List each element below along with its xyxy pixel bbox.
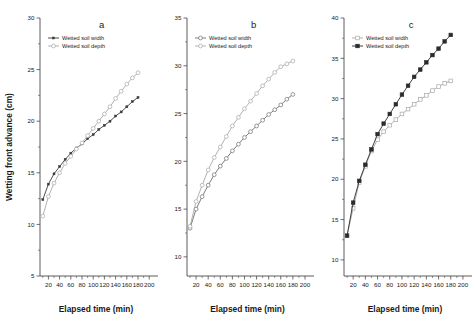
legend-label: Wetted soil width	[366, 35, 408, 41]
data-marker	[267, 113, 271, 117]
data-marker	[70, 152, 72, 154]
x-tick-label: 120	[409, 281, 420, 288]
data-marker	[137, 96, 139, 98]
data-marker	[418, 68, 422, 72]
x-tick-label: 140	[110, 281, 121, 288]
data-marker	[425, 94, 429, 98]
x-tick-label: 40	[362, 281, 369, 288]
data-marker	[224, 157, 228, 161]
data-marker	[52, 181, 56, 185]
y-tick-label: 25	[28, 66, 35, 73]
data-marker	[279, 103, 283, 107]
panel-c: 1015202530354020406080100120140160180200…	[314, 0, 473, 324]
data-marker	[356, 36, 360, 40]
x-tick-label: 100	[397, 281, 408, 288]
x-tick-label: 40	[56, 281, 63, 288]
data-marker	[188, 224, 192, 228]
panel-letter-a: a	[99, 19, 105, 30]
data-marker	[394, 102, 398, 106]
x-axis-title: Elapsed time (min)	[210, 304, 285, 314]
panel-letter-b: b	[251, 19, 256, 30]
data-marker	[400, 112, 404, 116]
data-marker	[131, 101, 133, 103]
data-marker	[437, 47, 441, 51]
data-marker	[194, 200, 198, 204]
x-tick-label: 160	[122, 281, 133, 288]
x-tick-label: 200	[458, 281, 469, 288]
data-marker	[255, 92, 259, 96]
data-marker	[449, 33, 453, 37]
data-marker	[237, 115, 241, 119]
data-marker	[437, 85, 441, 89]
data-marker	[400, 93, 404, 97]
data-marker	[255, 124, 259, 128]
y-tick-label: 35	[332, 55, 339, 62]
x-tick-label: 60	[374, 281, 381, 288]
x-tick-label: 180	[446, 281, 457, 288]
data-marker	[449, 79, 453, 83]
figure-wetting-front-advance: 5101520253020406080100120140160180200aWe…	[0, 0, 473, 324]
data-marker	[431, 89, 435, 93]
data-marker	[261, 84, 265, 88]
data-marker	[249, 99, 253, 103]
data-marker	[443, 40, 447, 44]
x-tick-label: 180	[133, 281, 144, 288]
data-marker	[108, 105, 112, 109]
y-tick-label: 25	[332, 135, 339, 142]
data-marker	[406, 107, 410, 111]
y-axis-title: Wetting front advance (cm)	[4, 93, 14, 201]
data-marker	[125, 82, 129, 86]
data-marker	[224, 135, 228, 139]
y-tick-label: 30	[175, 62, 182, 69]
data-marker	[42, 199, 44, 201]
x-tick-label: 80	[79, 281, 86, 288]
data-marker	[212, 156, 216, 160]
data-marker	[131, 76, 135, 80]
data-marker	[394, 118, 398, 122]
x-tick-label: 20	[350, 281, 357, 288]
data-marker	[103, 124, 105, 126]
panel-a: 5101520253020406080100120140160180200aWe…	[0, 0, 158, 324]
data-marker	[356, 44, 360, 48]
y-tick-label: 15	[332, 216, 339, 223]
data-marker	[75, 147, 79, 151]
x-tick-label: 160	[433, 281, 444, 288]
data-marker	[382, 122, 386, 126]
data-marker	[370, 148, 374, 152]
x-tick-label: 180	[288, 281, 299, 288]
data-marker	[285, 97, 289, 101]
data-marker	[47, 195, 51, 199]
data-marker	[69, 154, 73, 158]
data-marker	[91, 127, 95, 131]
x-tick-label: 80	[229, 281, 236, 288]
data-marker	[92, 134, 94, 136]
chart-svg-c: 1015202530354020406080100120140160180200…	[314, 0, 473, 324]
y-tick-label: 30	[332, 95, 339, 102]
legend-label: Wetted soil depth	[366, 43, 409, 49]
legend: Wetted soil widthWetted soil depth	[48, 35, 105, 49]
series-line	[43, 97, 138, 199]
data-marker	[41, 214, 45, 218]
axis-lines	[40, 18, 158, 276]
series-1	[42, 96, 139, 200]
data-marker	[406, 84, 410, 88]
data-marker	[212, 173, 216, 177]
series-line	[190, 94, 293, 228]
data-marker	[86, 134, 90, 138]
y-tick-label: 10	[175, 253, 182, 260]
legend: Wetted soil widthWetted soil depth	[352, 35, 409, 49]
data-marker	[388, 112, 392, 116]
series-2	[188, 59, 295, 228]
data-marker	[80, 141, 84, 145]
data-marker	[357, 179, 361, 183]
data-marker	[382, 130, 386, 134]
data-marker	[103, 112, 107, 116]
data-marker	[199, 36, 203, 40]
series-line	[190, 61, 293, 226]
data-marker	[230, 124, 234, 128]
data-marker	[115, 115, 117, 117]
panel-letter-c: c	[409, 19, 414, 30]
data-marker	[109, 120, 111, 122]
data-marker	[59, 166, 61, 168]
y-tick-label: 40	[332, 14, 339, 21]
